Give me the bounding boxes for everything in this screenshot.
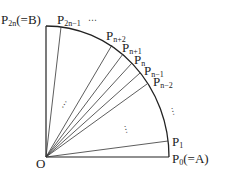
label-Pn-2: Pn−2 bbox=[153, 75, 173, 90]
label-P1: P1 bbox=[172, 135, 183, 150]
ellipsis-top: ⋯ bbox=[88, 16, 97, 25]
radius-Pn-1 bbox=[46, 73, 140, 157]
radius-P2n-1 bbox=[46, 27, 61, 157]
label-B: P2n(=B) bbox=[1, 13, 41, 28]
label-A: P0(=A) bbox=[172, 152, 209, 167]
label-O: O bbox=[36, 157, 45, 170]
label-P2n-1: P2n−1 bbox=[57, 13, 81, 28]
radius-Pn+2 bbox=[46, 45, 112, 157]
radius-Pn bbox=[46, 63, 132, 157]
